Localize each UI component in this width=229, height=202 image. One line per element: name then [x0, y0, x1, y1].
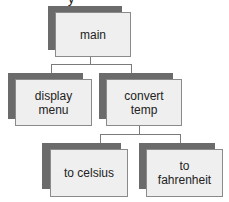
node-box: to celsius: [50, 149, 128, 197]
connector-line: [51, 64, 132, 65]
connector-line: [51, 64, 52, 73]
node-box: display menu: [15, 79, 92, 126]
node-box: main: [55, 12, 131, 57]
node-box: to fahrenheit: [146, 149, 223, 197]
connector-line: [100, 134, 181, 135]
node-label-line1: display: [35, 89, 72, 103]
node-box: convert temp: [106, 79, 182, 126]
connector-line: [180, 134, 181, 143]
node-label-line1: convert: [124, 89, 163, 103]
node-label: main: [80, 28, 106, 42]
connector-line: [131, 64, 132, 73]
node-label-line2: fahrenheit: [158, 173, 211, 187]
node-label-line1: to: [158, 159, 211, 173]
node-label-line2: menu: [35, 103, 72, 117]
node-label-line2: temp: [124, 103, 163, 117]
connector-line: [139, 126, 140, 134]
node-label: to celsius: [64, 166, 114, 180]
connector-line: [100, 134, 101, 143]
